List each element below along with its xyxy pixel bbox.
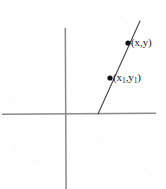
point-label-x1y1: (x1,y1) [113,72,141,83]
vertical-axis [65,28,66,189]
sloped-line [98,21,140,114]
subscript-y: 1 [134,76,138,85]
point-marker-x1y1 [107,75,112,80]
horizontal-axis [2,113,156,114]
figure-canvas [0,0,166,189]
coordinate-plane-figure: (x,y) (x1,y1) [0,0,166,189]
paren-close: ) [137,71,141,83]
point-marker-xy [125,40,130,45]
variable-y: y [128,71,133,83]
point-label-xy: (x,y) [131,37,152,48]
paren-close: ) [148,36,152,48]
subscript-x: 1 [122,76,126,85]
